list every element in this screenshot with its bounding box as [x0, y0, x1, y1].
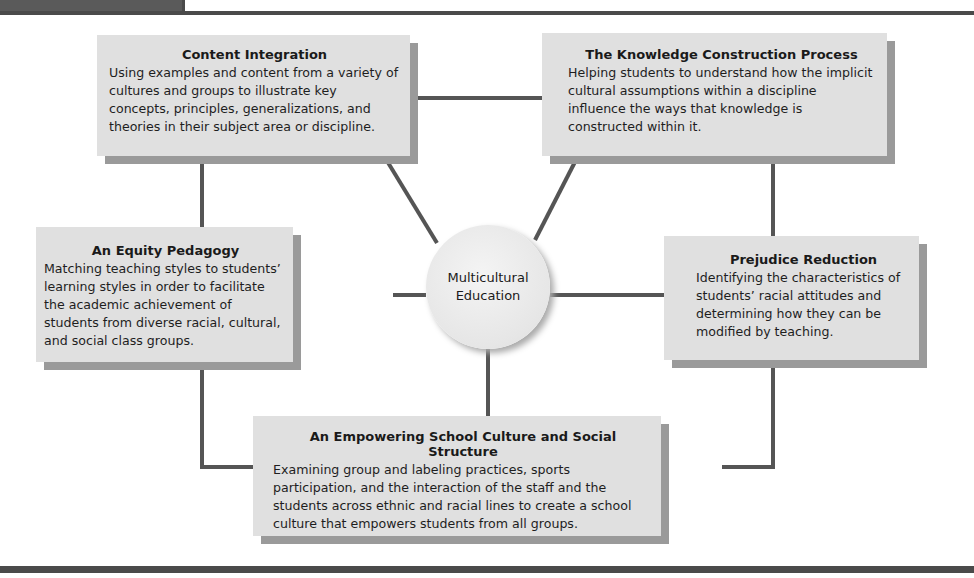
dimension-title: An Equity Pedagogy	[44, 243, 287, 258]
dimension-description: Examining group and labeling practices, …	[273, 461, 653, 533]
dimension-title: The Knowledge Construction Process	[568, 47, 875, 62]
dimension-box-knowledge-construction: The Knowledge Construction Process Helpi…	[542, 33, 887, 156]
hub-multicultural-education: Multicultural Education	[426, 225, 550, 349]
dimension-description: Using examples and content from a variet…	[109, 64, 400, 136]
hub-label-line2: Education	[447, 287, 528, 305]
dimension-title: Prejudice Reduction	[696, 252, 911, 267]
dimension-description: Identifying the characteristics of stude…	[696, 269, 911, 341]
dimension-title: An Empowering School Culture and Social …	[273, 429, 653, 459]
dimension-box-empowering-school-culture: An Empowering School Culture and Social …	[253, 416, 661, 536]
dimension-box-prejudice-reduction: Prejudice Reduction Identifying the char…	[664, 236, 919, 360]
dimension-description: Matching teaching styles to students’ le…	[44, 260, 287, 350]
footer-rule	[0, 566, 974, 573]
dimension-title: Content Integration	[109, 47, 400, 62]
dimension-description: Helping students to understand how the i…	[568, 64, 875, 136]
dimension-box-content-integration: Content Integration Using examples and c…	[97, 35, 410, 156]
hub-label-line1: Multicultural	[447, 269, 528, 287]
dimension-box-equity-pedagogy: An Equity Pedagogy Matching teaching sty…	[36, 227, 293, 362]
